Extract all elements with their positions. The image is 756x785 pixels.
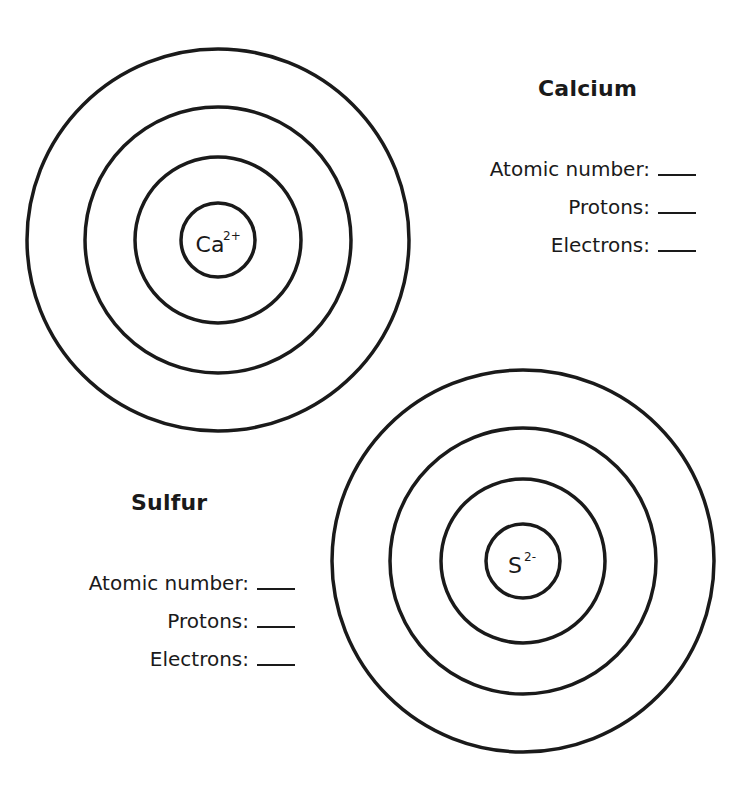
- answer-blank[interactable]: [257, 570, 295, 590]
- field-label: Electrons:: [150, 647, 249, 671]
- answer-blank[interactable]: [257, 608, 295, 628]
- answer-blank[interactable]: [658, 194, 696, 214]
- answer-blank[interactable]: [257, 646, 295, 666]
- calcium-protons-field[interactable]: Protons:: [568, 194, 696, 219]
- calcium-electrons-field[interactable]: Electrons:: [551, 232, 696, 257]
- bohr-diagrams: Ca 2+ S 2-: [0, 0, 756, 785]
- calcium-symbol: Ca: [196, 232, 225, 257]
- answer-blank[interactable]: [658, 156, 696, 176]
- field-label: Protons:: [167, 609, 249, 633]
- calcium-charge: 2+: [223, 229, 241, 243]
- field-label: Electrons:: [551, 233, 650, 257]
- field-label: Atomic number:: [89, 571, 249, 595]
- calcium-atomic-number-field[interactable]: Atomic number:: [490, 156, 696, 181]
- sulfur-shell-2: [390, 428, 656, 694]
- sulfur-nucleus: [486, 524, 560, 598]
- sulfur-shell-1: [441, 479, 605, 643]
- answer-blank[interactable]: [658, 232, 696, 252]
- field-label: Atomic number:: [490, 157, 650, 181]
- calcium-title: Calcium: [538, 76, 637, 101]
- sulfur-title: Sulfur: [131, 490, 207, 515]
- sulfur-symbol: S: [508, 553, 522, 578]
- sulfur-atomic-number-field[interactable]: Atomic number:: [89, 570, 295, 595]
- sulfur-electrons-field[interactable]: Electrons:: [150, 646, 295, 671]
- sulfur-protons-field[interactable]: Protons:: [167, 608, 295, 633]
- sulfur-charge: 2-: [524, 550, 536, 564]
- sulfur-atom: [332, 370, 714, 752]
- field-label: Protons:: [568, 195, 650, 219]
